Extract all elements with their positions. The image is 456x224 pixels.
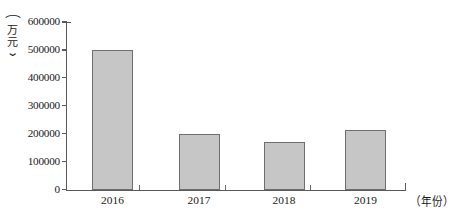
- y-axis-tick-label: 100000: [28, 156, 60, 167]
- y-axis-unit-label: ⌒ 万 元 ⌄: [4, 18, 21, 55]
- y-axis-tick-label: 400000: [28, 72, 60, 83]
- y-axis-unit-paren-open: ⌒: [0, 18, 25, 24]
- y-axis-tick-label: 600000: [28, 16, 60, 27]
- x-axis-tick: [139, 185, 140, 190]
- x-axis-unit-label: （年份）: [410, 195, 454, 208]
- y-axis-tick-label: 300000: [28, 100, 60, 111]
- x-axis-tick: [225, 185, 226, 190]
- x-axis-unit-text: （年份）: [410, 194, 454, 209]
- bar-2016: [92, 50, 133, 190]
- y-axis-tick-label: 0: [55, 184, 60, 195]
- bar-2019: [345, 130, 386, 190]
- plot-area: [67, 22, 406, 190]
- bar-2018: [264, 142, 305, 190]
- x-axis-tick: [310, 185, 311, 190]
- y-axis-unit-paren-close: ⌄: [0, 49, 25, 55]
- y-axis-tick-label: 200000: [28, 128, 60, 139]
- x-axis-tick-label: 2016: [89, 194, 137, 207]
- bar-2017: [179, 134, 220, 190]
- x-axis-tick-label: 2017: [175, 194, 223, 207]
- bar-chart: ⌒ 万 元 ⌄ 60000050000040000030000020000010…: [0, 0, 456, 224]
- y-axis-tick-label: 500000: [28, 44, 60, 55]
- x-axis-tick-label: 2019: [342, 194, 390, 207]
- x-axis-tick-label: 2018: [260, 194, 308, 207]
